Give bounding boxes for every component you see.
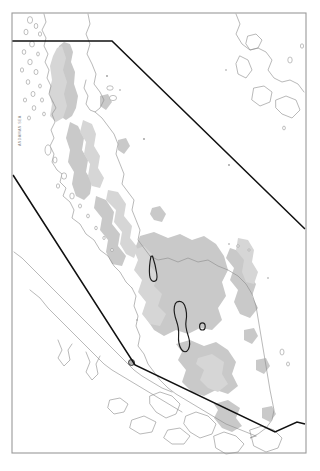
islet-speck-3 xyxy=(143,138,145,140)
islet-group-b xyxy=(109,95,116,100)
island-west-15 xyxy=(41,98,44,102)
island-west-2 xyxy=(34,23,38,28)
coastline-straits-g xyxy=(164,428,190,444)
island-west-16 xyxy=(32,106,36,111)
coastline-borneo-inner xyxy=(246,34,262,50)
coastline-sumatra-detail-b xyxy=(86,352,100,380)
island-west-12 xyxy=(39,84,42,88)
island-west-14 xyxy=(23,98,26,102)
islet-group-e xyxy=(280,349,284,355)
islet-group-f xyxy=(287,362,290,366)
island-phuket xyxy=(45,145,51,155)
upland-patch-spur-c xyxy=(244,328,258,344)
island-east-a xyxy=(288,57,292,63)
map-figure: ANDAMAN SEA xyxy=(0,0,320,471)
upland-patch-spur-d xyxy=(256,358,270,374)
island-west-17 xyxy=(43,112,46,116)
coastline-borneo-c xyxy=(252,86,272,106)
island-west-18 xyxy=(28,116,31,120)
coastline-borneo-d xyxy=(276,96,300,118)
islet-group-a xyxy=(107,86,113,90)
coastline-straits-f xyxy=(130,416,156,434)
island-west-8 xyxy=(28,59,32,65)
island-west-10 xyxy=(34,69,38,74)
island-west-11 xyxy=(26,80,30,85)
island-west-13 xyxy=(31,91,35,96)
map-canvas: ANDAMAN SEA xyxy=(0,0,320,471)
upland-patch-isthmus-soft xyxy=(49,46,67,122)
island-small-b xyxy=(87,214,90,218)
island-east-b xyxy=(300,44,303,48)
coastline-borneo-b xyxy=(236,56,252,78)
islet-speck-1 xyxy=(106,75,108,77)
island-small-d xyxy=(103,236,105,239)
islet-group-c xyxy=(237,245,240,247)
island-west-4 xyxy=(38,32,41,36)
island-phuket-b xyxy=(53,157,57,163)
island-small-c xyxy=(95,226,98,230)
island-langkawi xyxy=(61,173,66,179)
islet-speck-8 xyxy=(228,164,230,166)
coastline-straits-e xyxy=(108,398,128,414)
island-penang xyxy=(70,193,74,199)
islet-speck-4 xyxy=(228,243,230,245)
island-west-5 xyxy=(30,41,35,47)
upland-shading-layer xyxy=(49,42,276,432)
island-small-e xyxy=(111,248,113,251)
islet-speck-6 xyxy=(136,319,138,321)
island-east-c xyxy=(283,126,286,130)
coastline-borneo-west xyxy=(236,14,304,92)
island-small-a xyxy=(79,204,82,208)
islet-group-d xyxy=(248,249,250,251)
upland-patch-spur-f xyxy=(118,138,130,154)
islet-speck-5 xyxy=(267,277,269,279)
sea-label-andaman: ANDAMAN SEA xyxy=(18,115,22,146)
upland-patch-spur-a xyxy=(150,206,166,222)
islet-speck-7 xyxy=(225,69,227,71)
island-west-9 xyxy=(20,68,23,72)
coastline-straits-d xyxy=(250,426,282,452)
coastline-straits-c xyxy=(214,432,244,454)
island-langkawi-b xyxy=(56,184,59,188)
coastline-sumatra-detail xyxy=(58,340,72,366)
island-west-7 xyxy=(37,52,40,56)
coastline-straits-a xyxy=(150,392,180,418)
island-west-1 xyxy=(27,17,32,24)
island-west-3 xyxy=(24,29,28,35)
coastline-straits-b xyxy=(184,412,216,438)
islet-speck-2 xyxy=(119,89,121,91)
island-west-6 xyxy=(22,50,26,55)
